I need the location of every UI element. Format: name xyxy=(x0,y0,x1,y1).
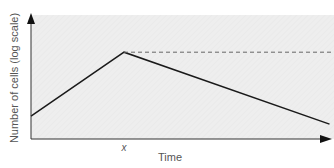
chart: x Time Number of cells (log scale) xyxy=(0,0,334,168)
plot-background xyxy=(31,15,334,139)
x-tick-label: x xyxy=(121,142,128,153)
y-axis-label: Number of cells (log scale) xyxy=(8,13,20,143)
x-axis-label: Time xyxy=(158,151,182,163)
tick-layer: x xyxy=(121,142,128,153)
